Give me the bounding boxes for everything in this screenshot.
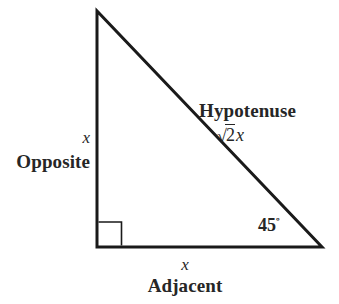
radical-factor-variable: x <box>236 125 244 145</box>
hypotenuse-length-expression: √2x <box>217 126 244 145</box>
degree-symbol: º <box>276 215 280 227</box>
opposite-side-variable: x <box>0 129 90 146</box>
angle-value: 45 <box>258 215 276 235</box>
opposite-side-label: Opposite <box>0 152 90 171</box>
triangle-outline <box>97 11 322 247</box>
adjacent-side-label: Adjacent <box>126 276 244 295</box>
radicand-value: 2 <box>225 124 235 145</box>
radical-expression: √2x <box>217 126 244 145</box>
adjacent-side-variable: x <box>140 256 230 273</box>
angle-measure-label: 45º <box>258 216 280 234</box>
hypotenuse-side-label: Hypotenuse <box>199 101 296 120</box>
right-angle-marker <box>99 222 122 246</box>
triangle-diagram: x Opposite x Adjacent Hypotenuse √2x 45º <box>0 0 339 304</box>
